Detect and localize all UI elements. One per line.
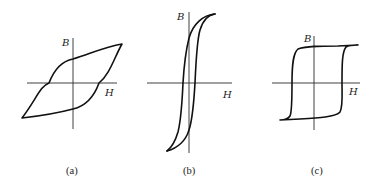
caption-a: (a) [66,165,78,177]
hysteresis-figure: B H (a) B H (b) B H (c) [0,0,378,185]
hysteresis-loop-b-ascending [167,14,215,151]
caption-c: (c) [311,165,323,177]
hysteresis-loop-b-descending [167,14,215,151]
h-label-b: H [222,89,232,100]
caption-b: (b) [183,165,196,177]
b-label-b: B [176,11,184,22]
panel-a: B H (a) [22,37,122,177]
hysteresis-loop-c [280,45,358,120]
figure-canvas: B H (a) B H (b) B H (c) [0,0,378,185]
b-label-a: B [61,37,69,48]
panel-b: B H (b) [147,11,232,177]
hysteresis-loop-a [22,44,122,118]
panel-c: B H (c) [272,33,360,177]
h-label-a: H [104,87,114,98]
h-label-c: H [348,86,358,97]
b-label-c: B [303,33,311,44]
